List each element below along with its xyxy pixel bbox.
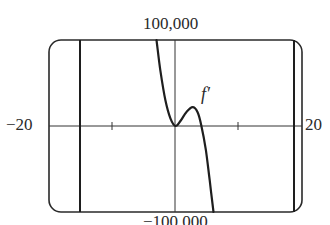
y-min-label: −100,000 — [143, 212, 208, 225]
curve-label: f′ — [201, 84, 210, 105]
x-min-label: −20 — [6, 115, 33, 135]
y-max-label: 100,000 — [143, 14, 198, 34]
x-max-label: 20 — [305, 115, 322, 135]
